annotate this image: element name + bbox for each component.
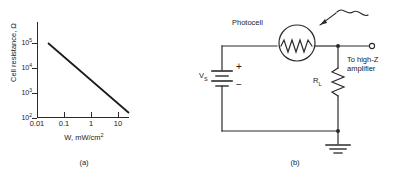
photocell-resistor-zigzag: [281, 40, 312, 52]
polarity-minus: −: [236, 80, 242, 89]
load-resistor-label: RL: [313, 76, 321, 85]
panel-a-chart: 102 103 104 105 0.01 0.1 1 10 Cell resis…: [0, 0, 195, 185]
source-label: VS: [199, 71, 208, 80]
panel-b-caption: (b): [240, 158, 350, 167]
y-axis-title: Cell resistance, Ω: [9, 10, 18, 96]
load-resistor-zigzag: [332, 68, 344, 96]
output-terminal: [369, 43, 374, 48]
polarity-plus: +: [236, 62, 242, 71]
panel-a-caption: (a): [34, 158, 134, 167]
figure-root: 102 103 104 105 0.01 0.1 1 10 Cell resis…: [0, 0, 395, 185]
photocell-label: Photocell: [232, 18, 263, 27]
x-axis-title: W, mW/cm2: [34, 133, 134, 142]
light-squiggle: [337, 10, 368, 16]
panel-b-circuit: Photocell VS + − RL To high-Z amplifier …: [195, 0, 395, 185]
output-label-line2: amplifier: [347, 64, 375, 73]
output-label-line1: To high-Z: [347, 55, 378, 64]
